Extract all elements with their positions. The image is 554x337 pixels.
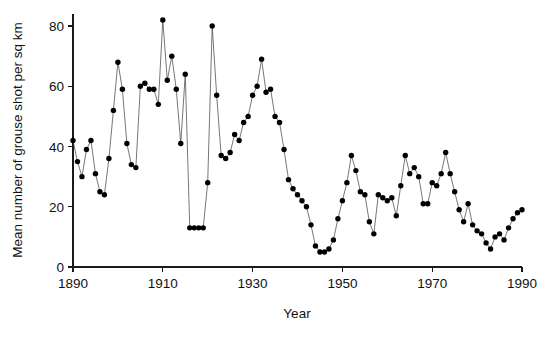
data-point	[407, 171, 412, 176]
data-point	[308, 222, 313, 227]
data-point	[174, 87, 179, 92]
x-tick-label: 1950	[327, 276, 357, 291]
data-point	[461, 219, 466, 224]
data-point	[156, 102, 161, 107]
data-point	[75, 159, 80, 164]
data-point	[277, 120, 282, 125]
data-point	[425, 201, 430, 206]
data-point	[295, 192, 300, 197]
data-point	[371, 231, 376, 236]
x-tick-label: 1990	[507, 276, 537, 291]
data-point	[218, 153, 223, 158]
data-point	[452, 189, 457, 194]
series-polyline	[73, 20, 522, 252]
data-point	[394, 213, 399, 218]
data-point	[236, 138, 241, 143]
data-point	[438, 171, 443, 176]
data-point	[456, 207, 461, 212]
data-point	[443, 150, 448, 155]
data-point	[259, 56, 264, 61]
data-point	[79, 174, 84, 179]
data-point	[416, 174, 421, 179]
data-point	[344, 180, 349, 185]
data-point	[93, 171, 98, 176]
data-point	[115, 59, 120, 64]
grouse-line-chart: 020406080 189019101930195019701990 Year …	[0, 0, 554, 337]
data-point	[488, 246, 493, 251]
data-point	[138, 84, 143, 89]
data-point	[430, 180, 435, 185]
data-point	[223, 156, 228, 161]
data-point	[519, 207, 524, 212]
data-point	[70, 138, 75, 143]
data-point	[412, 165, 417, 170]
data-point	[250, 93, 255, 98]
data-point	[227, 150, 232, 155]
data-point	[434, 183, 439, 188]
data-point	[151, 87, 156, 92]
data-point	[142, 81, 147, 86]
data-point	[286, 177, 291, 182]
data-point	[290, 186, 295, 191]
data-point	[84, 147, 89, 152]
data-point	[160, 17, 165, 22]
data-point	[245, 114, 250, 119]
data-point	[322, 249, 327, 254]
data-point	[263, 90, 268, 95]
data-point	[510, 216, 515, 221]
data-point	[169, 53, 174, 58]
chart-svg: 020406080 189019101930195019701990 Year …	[0, 0, 554, 337]
data-point	[272, 114, 277, 119]
data-point	[389, 195, 394, 200]
data-point	[111, 108, 116, 113]
data-point	[102, 192, 107, 197]
data-point	[281, 147, 286, 152]
data-point	[367, 219, 372, 224]
data-point	[201, 225, 206, 230]
data-point	[385, 198, 390, 203]
data-point	[232, 132, 237, 137]
data-point	[403, 153, 408, 158]
data-point	[497, 231, 502, 236]
data-point	[447, 171, 452, 176]
data-point	[501, 237, 506, 242]
data-point	[515, 210, 520, 215]
data-point	[124, 141, 129, 146]
data-point	[214, 93, 219, 98]
data-point	[398, 183, 403, 188]
data-point	[358, 189, 363, 194]
data-point	[465, 201, 470, 206]
data-point	[492, 234, 497, 239]
data-point	[349, 153, 354, 158]
data-point	[474, 228, 479, 233]
y-tick-label: 80	[49, 19, 64, 34]
x-tick-label: 1970	[417, 276, 447, 291]
data-point	[326, 246, 331, 251]
data-point	[178, 141, 183, 146]
y-tick-label: 0	[56, 260, 64, 275]
data-point	[299, 198, 304, 203]
y-tick-label: 40	[49, 140, 64, 155]
data-point	[353, 168, 358, 173]
data-point	[376, 192, 381, 197]
x-tick-label: 1910	[148, 276, 178, 291]
data-point	[362, 192, 367, 197]
data-point	[483, 240, 488, 245]
data-point	[97, 189, 102, 194]
y-tick-label: 20	[49, 200, 64, 215]
data-point	[241, 120, 246, 125]
data-point	[120, 87, 125, 92]
data-point	[183, 72, 188, 77]
data-point	[106, 156, 111, 161]
x-tick-label: 1890	[58, 276, 88, 291]
plot-area: 020406080 189019101930195019701990	[49, 14, 537, 291]
y-axis-ticks: 020406080	[49, 19, 73, 275]
y-axis-title: Mean number of grouse shot per sq km	[10, 22, 25, 258]
data-point	[313, 243, 318, 248]
data-point	[209, 23, 214, 28]
x-axis-title: Year	[283, 306, 311, 321]
data-point	[479, 231, 484, 236]
data-point	[304, 204, 309, 209]
data-point	[506, 225, 511, 230]
data-point	[335, 216, 340, 221]
